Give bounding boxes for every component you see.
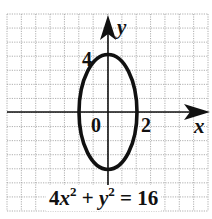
origin-label: 0 [91,114,101,136]
y-axis-label: y [114,15,127,39]
equation-rhs: 16 [137,186,158,210]
equation-var-y: y [99,186,108,210]
equation-equals: = [120,186,132,210]
equation-coefficient: 4 [49,186,60,210]
equation-exponent-y: 2 [108,184,115,199]
y-axis [100,15,116,211]
x-tick-label-2: 2 [141,114,151,136]
equation-plus: + [82,186,94,210]
equation-label: 4x2 + y2 = 16 [46,185,161,211]
y-tick-label-4: 4 [82,48,92,70]
equation-var-x: x [60,186,71,210]
equation-exponent-x: 2 [70,184,77,199]
x-axis-label: x [193,114,205,138]
